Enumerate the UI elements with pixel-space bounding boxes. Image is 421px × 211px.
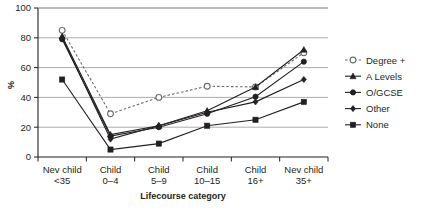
series-other <box>60 35 307 143</box>
x-tick-label-2: 5–9 <box>151 175 167 186</box>
legend-label: Other <box>366 103 390 114</box>
legend-item-none[interactable]: None <box>345 119 389 130</box>
data-point <box>108 111 114 117</box>
y-tick-label-100: 100 <box>15 2 31 13</box>
legend-label: O/GCSE <box>366 87 403 98</box>
y-tick-label-40: 40 <box>20 92 31 103</box>
data-point <box>301 59 306 64</box>
y-tick-label-0: 0 <box>26 151 31 162</box>
x-tick-label-1: 0–4 <box>103 175 119 186</box>
legend-item-a-levels[interactable]: A Levels <box>345 71 402 82</box>
legend: Degree +A LevelsO/GCSEOtherNone <box>345 55 406 131</box>
x-tick-label-4: Child <box>245 164 267 175</box>
x-tick-label-3: Child <box>196 164 218 175</box>
x-axis-group: Nev child<35Child0–4Child5–9Child10–15Ch… <box>38 157 328 186</box>
data-point <box>204 83 210 89</box>
data-point <box>301 47 307 53</box>
chart-canvas: 020406080100Nev child<35Child0–4Child5–9… <box>0 0 421 211</box>
x-tick-label-0: <35 <box>54 175 70 186</box>
y-axis-group: 020406080100 <box>15 2 38 162</box>
legend-label: Degree + <box>366 55 406 66</box>
lifecourse-education-line-chart: 020406080100Nev child<35Child0–4Child5–9… <box>0 0 421 211</box>
series-none <box>60 77 307 152</box>
data-point <box>350 57 356 63</box>
data-point <box>253 99 258 105</box>
data-point <box>156 95 162 101</box>
data-point <box>205 123 210 128</box>
series-line <box>62 36 304 134</box>
x-tick-label-0: Nev child <box>43 164 82 175</box>
x-tick-label-3: 10–15 <box>194 175 220 186</box>
legend-item-other[interactable]: Other <box>345 103 390 114</box>
data-point <box>350 122 355 127</box>
x-axis-title: Lifecourse category <box>140 191 226 201</box>
data-point <box>59 27 65 33</box>
series-o-gcse <box>60 37 307 139</box>
data-point <box>60 77 65 82</box>
series-degree <box>59 27 306 116</box>
legend-label: None <box>366 119 389 130</box>
x-tick-label-4: 16+ <box>247 175 264 186</box>
series-a-levels <box>59 33 307 137</box>
legend-label: A Levels <box>366 71 402 82</box>
x-tick-label-5: Nev child <box>284 164 323 175</box>
y-tick-label-60: 60 <box>20 62 31 73</box>
y-axis-title: % <box>6 81 16 89</box>
series-line <box>62 30 304 113</box>
y-tick-label-80: 80 <box>20 32 31 43</box>
data-point <box>156 141 161 146</box>
data-point <box>350 106 355 112</box>
data-point <box>253 117 258 122</box>
data-point <box>350 90 355 95</box>
data-point <box>301 76 306 82</box>
x-tick-label-5: 35+ <box>296 175 313 186</box>
x-tick-label-2: Child <box>148 164 170 175</box>
data-point <box>301 99 306 104</box>
y-tick-label-20: 20 <box>20 122 31 133</box>
data-point <box>108 147 113 152</box>
legend-item-o-gcse[interactable]: O/GCSE <box>345 87 403 98</box>
x-tick-label-1: Child <box>100 164 122 175</box>
legend-item-degree[interactable]: Degree + <box>345 55 406 66</box>
series-line <box>62 39 304 136</box>
